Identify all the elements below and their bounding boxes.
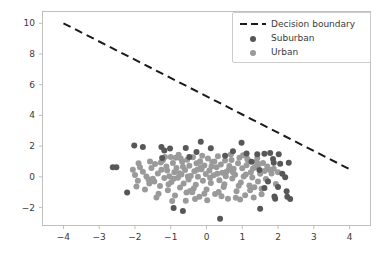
xtick-label: 2 — [275, 232, 281, 242]
scatter-point — [239, 140, 245, 146]
scatter-point — [131, 142, 137, 148]
scatter-point — [243, 171, 249, 177]
scatter-point — [254, 151, 260, 157]
scatter-point — [276, 151, 282, 157]
ytick-label: 4 — [0, 110, 35, 120]
scatter-point — [124, 190, 130, 196]
scatter-point — [256, 161, 262, 167]
scatter-point — [257, 206, 263, 212]
legend-dot-swatch-urban — [238, 45, 268, 59]
scatter-point — [251, 184, 257, 190]
scatter-point — [185, 174, 191, 180]
legend-label-decision-boundary: Decision boundary — [268, 19, 355, 29]
scatter-point — [199, 153, 205, 159]
legend-label-urban: Urban — [268, 47, 298, 57]
scatter-point — [167, 146, 173, 152]
scatter-point — [164, 167, 170, 173]
scatter-point — [235, 160, 241, 166]
scatter-point — [170, 160, 176, 166]
scatter-point — [180, 164, 186, 170]
scatter-point — [165, 187, 171, 193]
ytick-label: 8 — [0, 49, 35, 59]
scatter-point — [171, 176, 177, 182]
legend-item-urban: Urban — [238, 45, 365, 59]
scatter-point — [192, 196, 198, 202]
scatter-point — [237, 197, 243, 203]
scatter-point — [183, 145, 189, 151]
scatter-point — [146, 177, 152, 183]
scatter-point — [236, 183, 242, 189]
scatter-point — [176, 170, 182, 176]
scatter-point — [284, 188, 290, 194]
scatter-point — [214, 171, 220, 177]
scatter-point — [151, 178, 157, 184]
xtick-label: 4 — [347, 232, 353, 242]
scatter-point — [249, 174, 255, 180]
scatter-point — [217, 216, 223, 222]
scatter-point — [195, 174, 201, 180]
xtick-label: −1 — [164, 232, 177, 242]
scatter-point — [225, 196, 231, 202]
scatter-point — [173, 165, 179, 171]
scatter-point — [286, 160, 292, 166]
scatter-point — [200, 178, 206, 184]
scatter-point — [168, 154, 174, 160]
scatter-point — [272, 196, 278, 202]
figure-canvas: −4−3−2−101234−20246810 Decision boundary… — [0, 0, 386, 262]
scatter-point — [261, 185, 267, 191]
scatter-point — [172, 193, 178, 199]
scatter-point — [180, 208, 186, 214]
scatter-point — [158, 167, 164, 173]
scatter-point — [186, 163, 192, 169]
scatter-point — [186, 154, 192, 160]
scatter-point — [142, 186, 148, 192]
scatter-point — [251, 194, 257, 200]
scatter-point — [159, 155, 165, 161]
scatter-point — [173, 155, 179, 161]
legend-dash-swatch — [238, 17, 268, 31]
scatter-point — [208, 180, 214, 186]
scatter-point — [267, 150, 273, 156]
ytick-label: 2 — [0, 141, 35, 151]
scatter-point — [216, 189, 222, 195]
scatter-point — [187, 188, 193, 194]
xtick-label: −4 — [57, 232, 70, 242]
chart-legend: Decision boundary Suburban Urban — [232, 12, 371, 63]
xtick-label: 3 — [311, 232, 317, 242]
legend-dot-swatch-suburban — [238, 31, 268, 45]
scatter-point — [169, 198, 175, 204]
scatter-point — [194, 167, 200, 173]
scatter-point — [147, 159, 153, 165]
scatter-point — [234, 188, 240, 194]
scatter-point — [249, 159, 255, 165]
scatter-series-urban — [130, 151, 281, 204]
scatter-point — [183, 198, 189, 204]
scatter-point — [271, 160, 277, 166]
scatter-point — [250, 166, 256, 172]
scatter-point — [161, 147, 167, 153]
scatter-point — [181, 181, 187, 187]
scatter-point — [166, 181, 172, 187]
ytick-label: 0 — [0, 172, 35, 182]
scatter-point — [201, 191, 207, 197]
scatter-point — [157, 183, 163, 189]
scatter-point — [244, 151, 250, 157]
scatter-point — [197, 158, 203, 164]
scatter-point — [261, 151, 267, 157]
scatter-point — [275, 184, 281, 190]
scatter-point — [198, 139, 204, 145]
scatter-point — [135, 178, 141, 184]
scatter-point — [132, 172, 138, 178]
xtick-label: 1 — [239, 232, 245, 242]
scatter-point — [265, 178, 271, 184]
scatter-point — [215, 153, 221, 159]
scatter-point — [277, 161, 283, 167]
scatter-point — [130, 167, 136, 173]
scatter-point — [222, 153, 228, 159]
xtick-label: −3 — [93, 232, 106, 242]
scatter-point — [242, 192, 248, 198]
scatter-point — [209, 163, 215, 169]
scatter-point — [256, 167, 262, 173]
legend-label-suburban: Suburban — [268, 33, 314, 43]
scatter-point — [156, 191, 162, 197]
